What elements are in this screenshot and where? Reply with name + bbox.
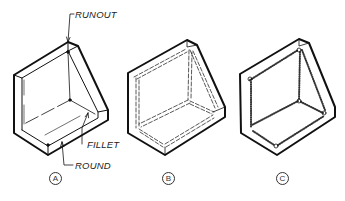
round-callout: ROUND [75,160,111,171]
view-c-label: C [276,172,289,185]
runout-callout: RUNOUT [75,9,117,20]
figure-canvas [0,0,345,201]
view-b-drawing [128,40,225,155]
view-b-label: B [162,172,175,185]
view-a-label: A [49,172,62,185]
view-c-drawing [240,39,335,155]
fillet-callout: FILLET [87,139,119,150]
